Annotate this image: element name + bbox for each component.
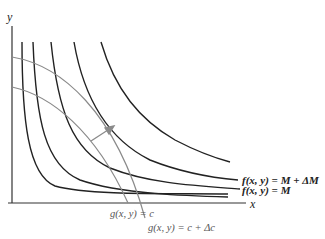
- diagram-canvas: y x f(x, y) = M + ΔM f(x, y) = M g(x, y)…: [0, 0, 325, 239]
- y-axis-label: y: [6, 10, 13, 24]
- label-f-M: f(x, y) = M: [242, 184, 292, 197]
- label-g-c: g(x, y) = c: [110, 208, 154, 220]
- label-g-c-plus-dc: g(x, y) = c + Δc: [148, 222, 215, 234]
- arrow-head-icon: [105, 126, 114, 134]
- f-curve-5: [101, 42, 230, 162]
- f-curve-1: [22, 42, 228, 194]
- lagrange-level-curves-diagram: y x f(x, y) = M + ΔM f(x, y) = M g(x, y)…: [0, 0, 325, 239]
- f-level-curves: [22, 42, 240, 197]
- g-constraint-curves: [12, 57, 145, 218]
- g-curve-c-plus-dc: [12, 57, 145, 218]
- f-curve-4-M-plus-dM: [74, 42, 238, 180]
- x-axis-label: x: [249, 197, 256, 211]
